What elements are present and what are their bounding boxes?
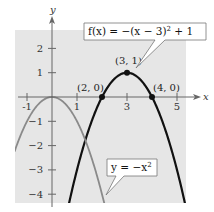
point-label: (3, 1) — [115, 55, 142, 66]
callout-f-text: f(x) = −(x − 3)2 + 1 — [88, 25, 193, 37]
x-tick-label: 5 — [174, 101, 180, 112]
y-tick-label: −3 — [28, 164, 43, 175]
x-tick-label: 1 — [74, 101, 80, 112]
point-marker — [99, 94, 105, 100]
y-tick-label: 1 — [37, 67, 43, 78]
x-tick-label: -1 — [22, 101, 32, 112]
point-label: (2, 0) — [77, 82, 104, 93]
y-tick-label: −2 — [28, 140, 43, 151]
point-label: (4, 0) — [153, 82, 180, 93]
y-tick-label: −4 — [28, 189, 43, 200]
parabola-chart: xy -1135−4−3−2−112 (2, 0)(3, 1)(4, 0) f(… — [0, 0, 214, 212]
y-tick-label: 2 — [37, 43, 43, 54]
y-axis-label: y — [49, 4, 56, 15]
x-tick-label: 3 — [124, 101, 130, 112]
x-axis-label: x — [203, 91, 209, 102]
callout-neg-x-squared-text: y = −x2 — [110, 161, 152, 173]
point-marker — [124, 70, 130, 76]
point-marker — [149, 94, 155, 100]
y-tick-label: −1 — [28, 116, 43, 127]
